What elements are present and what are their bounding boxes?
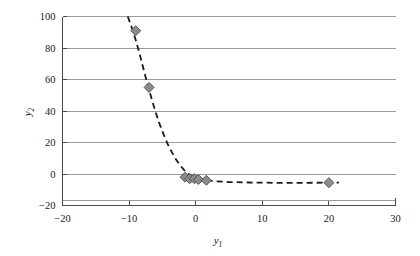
y-tick-label: 80 [45, 43, 56, 54]
x-tick-label: 0 [193, 213, 198, 224]
y-tick-label: 60 [45, 74, 56, 85]
y-tick-label: 20 [45, 137, 56, 148]
y-tick-label: 0 [50, 169, 55, 180]
y-tick-label: 100 [40, 11, 56, 22]
chart-figure: −20−100102030−20020406080100 y1y2 [0, 0, 420, 256]
x-tick-label: 20 [324, 213, 335, 224]
y-tick-label: −20 [39, 200, 55, 211]
x-tick-label: 30 [390, 213, 401, 224]
x-tick-label: −10 [121, 213, 137, 224]
x-tick-label: 10 [257, 213, 268, 224]
scatter-plot: −20−100102030−20020406080100 y1y2 [0, 0, 420, 256]
y-tick-label: 40 [45, 106, 56, 117]
x-tick-label: −20 [54, 213, 70, 224]
